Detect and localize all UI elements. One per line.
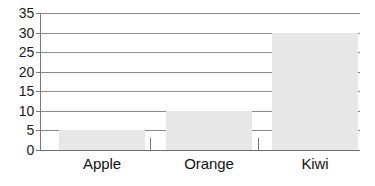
category-tick-2 bbox=[258, 138, 259, 150]
bar-chart: 35 30 25 20 15 10 5 0 Apple Orange Kiwi bbox=[0, 0, 375, 186]
y-axis-label-25: 25 bbox=[4, 45, 34, 59]
y-axis-label-15: 15 bbox=[4, 84, 34, 98]
y-axis-label-0: 0 bbox=[4, 143, 34, 157]
x-axis-label-apple: Apple bbox=[42, 155, 162, 172]
x-axis-label-kiwi: Kiwi bbox=[255, 155, 375, 172]
y-axis-label-20: 20 bbox=[4, 65, 34, 79]
y-axis-label-30: 30 bbox=[4, 26, 34, 40]
x-axis-baseline bbox=[41, 150, 360, 151]
y-axis-label-35: 35 bbox=[4, 6, 34, 20]
gridline-35 bbox=[41, 13, 360, 14]
x-axis-label-orange: Orange bbox=[149, 155, 269, 172]
category-tick-1 bbox=[150, 138, 151, 150]
plot-area bbox=[41, 13, 360, 150]
y-axis-label-10: 10 bbox=[4, 104, 34, 118]
bar-orange bbox=[166, 111, 252, 150]
y-axis-label-5: 5 bbox=[4, 123, 34, 137]
bar-apple bbox=[59, 130, 145, 150]
bar-kiwi bbox=[272, 33, 358, 150]
